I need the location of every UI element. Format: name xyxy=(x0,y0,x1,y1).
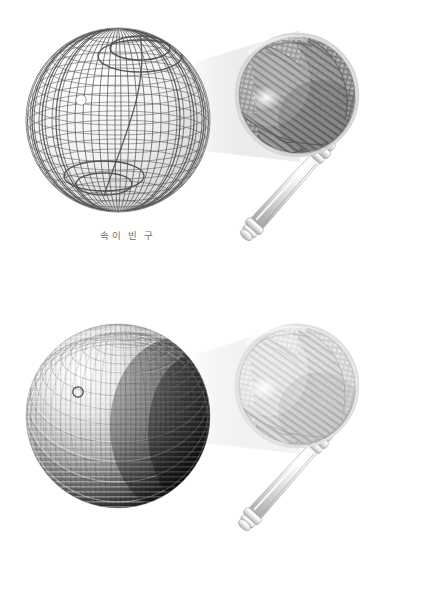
panel-hollow-sphere: 속이 빈 구 xyxy=(0,0,447,296)
panel-solid-sphere: 속이 찬 구 xyxy=(0,296,447,591)
hollow-sphere-scene xyxy=(0,0,447,296)
caption-hollow-sphere: 속이 빈 구 xyxy=(18,228,238,242)
solid-sphere-scene xyxy=(0,296,447,591)
illustration-figure: 속이 빈 구 xyxy=(0,0,447,591)
wireframe-sphere xyxy=(26,25,210,214)
sphere-hole xyxy=(76,95,86,105)
lens-specular-highlight xyxy=(250,86,282,110)
lens-specular-highlight xyxy=(248,376,280,400)
